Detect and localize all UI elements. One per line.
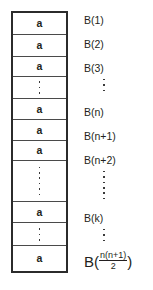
index-label: B(1) — [84, 15, 104, 26]
array-cell-ellipsis — [13, 223, 66, 246]
vertical-ellipsis-icon — [103, 227, 105, 243]
array-cell-label: a — [37, 125, 43, 136]
index-label: B(2) — [84, 39, 104, 50]
array-cell-label: a — [37, 207, 43, 218]
index-label: B(3) — [84, 63, 104, 74]
index-label-column: B(1)B(2)B(3)B(n)B(n+1)B(n+2)B(k)B(n(n+1)… — [84, 11, 153, 273]
array-cell: a — [13, 35, 66, 57]
array-index-diagram: aaaaaaaa B(1)B(2)B(3)B(n)B(n+1)B(n+2)B(k… — [0, 0, 153, 290]
index-label-suffix: ) — [127, 254, 132, 269]
array-cell-label: a — [37, 145, 43, 156]
array-cell-label: a — [37, 40, 43, 51]
vertical-ellipsis-icon — [39, 226, 41, 242]
array-cell-label: a — [37, 18, 43, 29]
vertical-ellipsis-icon — [103, 77, 105, 93]
vertical-ellipsis-icon — [39, 80, 41, 96]
array-cell-ellipsis — [13, 77, 66, 99]
array-box: aaaaaaaa — [11, 11, 68, 273]
index-label-fraction: B(n(n+1)2) — [84, 251, 132, 272]
index-label-prefix: B( — [84, 254, 99, 269]
array-cell: a — [13, 202, 66, 224]
array-cell: a — [13, 13, 66, 35]
array-cell-label: a — [37, 104, 43, 115]
array-cell: a — [13, 246, 66, 271]
index-label: B(n) — [84, 107, 104, 118]
fraction: n(n+1)2 — [99, 251, 127, 272]
array-cell: a — [13, 120, 66, 141]
array-cell-ellipsis — [13, 161, 66, 201]
array-cell-label: a — [37, 253, 43, 264]
array-cell: a — [13, 57, 66, 77]
index-label: B(k) — [84, 213, 103, 224]
array-cell-label: a — [37, 61, 43, 72]
fraction-denominator: 2 — [110, 261, 117, 271]
index-label: B(n+2) — [84, 155, 116, 166]
vertical-ellipsis-icon — [39, 165, 41, 197]
array-cell: a — [13, 99, 66, 120]
index-label: B(n+1) — [84, 131, 116, 142]
vertical-ellipsis-icon — [103, 169, 105, 201]
array-cell: a — [13, 141, 66, 161]
fraction-numerator: n(n+1) — [99, 251, 127, 260]
